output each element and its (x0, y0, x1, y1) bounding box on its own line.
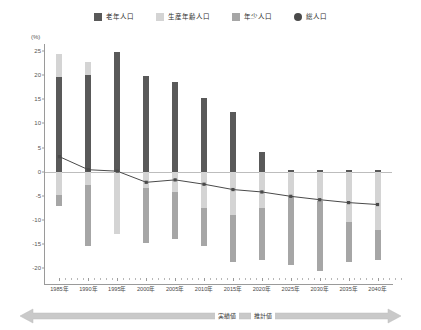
x-axis-tick-mark (175, 278, 176, 281)
x-axis-minor-tick (71, 278, 72, 280)
x-axis-minor-tick (192, 278, 193, 280)
line-data-point-marker (202, 183, 205, 186)
x-axis-tick-label: 2015年 (224, 285, 242, 293)
x-axis-tick-mark (117, 278, 118, 281)
x-axis-minor-tick (135, 278, 136, 280)
x-axis-tick-mark (378, 278, 379, 281)
x-axis-minor-tick (383, 278, 384, 280)
x-axis-tick-label: 2020年 (253, 285, 271, 293)
x-axis-tick-label: 2030年 (310, 285, 328, 293)
x-axis-tick-label: 1995年 (108, 285, 126, 293)
line-data-point-marker (58, 155, 61, 158)
total-population-polyline (59, 157, 377, 205)
x-axis-minor-tick (354, 278, 355, 280)
x-axis-minor-tick (216, 278, 217, 280)
period-annotation-band: 実績値 推計値 (20, 308, 401, 324)
x-axis-minor-tick (123, 278, 124, 280)
x-axis-minor-tick (140, 278, 141, 280)
x-axis-minor-tick (250, 278, 251, 280)
x-axis-tick-label: 2035年 (339, 285, 357, 293)
chart-root: 老年人口生産年齢人口年少人口総人口 (%) 2520151050-5-10-15… (0, 0, 421, 330)
line-data-point-marker (318, 198, 321, 201)
x-axis-tick-mark (349, 278, 350, 281)
x-axis-minor-tick (100, 278, 101, 280)
x-axis-minor-tick (279, 278, 280, 280)
x-axis-minor-tick (325, 278, 326, 280)
x-axis-minor-tick (366, 278, 367, 280)
line-data-point-marker (87, 168, 90, 171)
x-axis-minor-tick (308, 278, 309, 280)
x-axis-tick-label: 1990年 (79, 285, 97, 293)
line-data-point-marker (289, 195, 292, 198)
line-data-point-marker (260, 190, 263, 193)
x-axis-tick-mark (88, 278, 89, 281)
x-axis-tick-label: 2005年 (166, 285, 184, 293)
x-axis-minor-tick (343, 278, 344, 280)
x-axis-tick-mark (291, 278, 292, 281)
x-axis-minor-tick (372, 278, 373, 280)
x-axis-minor-tick (181, 278, 182, 280)
x-axis-minor-tick (401, 278, 402, 280)
x-axis-tick-mark (146, 278, 147, 281)
plot-canvas: 2520151050-5-10-15-201985年1990年1995年2000… (45, 46, 392, 278)
x-axis-minor-tick (129, 278, 130, 280)
x-axis-minor-tick (221, 278, 222, 280)
x-axis-minor-tick (273, 278, 274, 280)
x-axis-minor-tick (302, 278, 303, 280)
x-axis-tick-label: 2040年 (368, 285, 386, 293)
x-axis-minor-tick (389, 278, 390, 280)
x-axis-tick-mark (59, 278, 60, 281)
x-axis-minor-tick (187, 278, 188, 280)
x-axis-minor-tick (331, 278, 332, 280)
x-axis-minor-tick (239, 278, 240, 280)
line-data-point-marker (116, 170, 119, 173)
x-axis-minor-tick (169, 278, 170, 280)
x-axis-minor-tick (158, 278, 159, 280)
x-axis-minor-tick (227, 278, 228, 280)
x-axis-minor-tick (94, 278, 95, 280)
x-axis-minor-tick (256, 278, 257, 280)
x-axis-minor-tick (164, 278, 165, 280)
x-axis-minor-tick (112, 278, 113, 280)
line-data-point-marker (145, 181, 148, 184)
x-axis-tick-label: 2010年 (195, 285, 213, 293)
x-axis-minor-tick (65, 278, 66, 280)
x-axis-tick-mark (233, 278, 234, 281)
x-axis-minor-tick (152, 278, 153, 280)
x-axis-tick-label: 1985年 (50, 285, 68, 293)
x-axis-tick-mark (204, 278, 205, 281)
line-data-point-marker (376, 203, 379, 206)
x-axis-minor-tick (337, 278, 338, 280)
x-axis-minor-tick (395, 278, 396, 280)
x-axis-minor-tick (198, 278, 199, 280)
x-axis-tick-mark (320, 278, 321, 281)
x-axis-minor-tick (314, 278, 315, 280)
line-data-point-marker (347, 201, 350, 204)
x-axis-minor-tick (77, 278, 78, 280)
x-axis-tick-mark (262, 278, 263, 281)
x-axis-minor-tick (106, 278, 107, 280)
x-axis-minor-tick (297, 278, 298, 280)
x-axis-minor-tick (268, 278, 269, 280)
actual-period-label: 実績値 (215, 311, 239, 320)
total-population-line-series (45, 46, 392, 278)
x-axis-tick-label: 2025年 (282, 285, 300, 293)
line-data-point-marker (174, 178, 177, 181)
x-axis-minor-tick (245, 278, 246, 280)
x-axis-minor-tick (210, 278, 211, 280)
x-axis-minor-tick (360, 278, 361, 280)
estimate-period-label: 推計値 (251, 311, 275, 320)
plot-area: 2520151050-5-10-15-201985年1990年1995年2000… (0, 0, 421, 300)
double-arrow-icon (20, 308, 401, 324)
x-axis-tick-label: 2000年 (137, 285, 155, 293)
x-axis-minor-tick (285, 278, 286, 280)
x-axis-minor-tick (83, 278, 84, 280)
line-data-point-marker (231, 188, 234, 191)
